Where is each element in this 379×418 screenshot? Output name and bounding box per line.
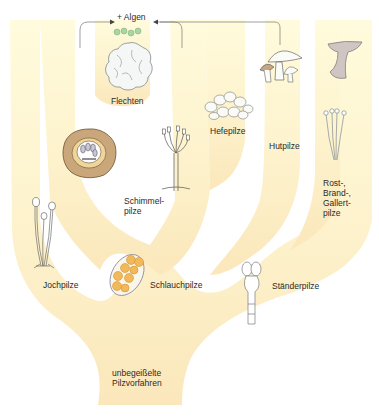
group-label-staenderpilze: Ständerpilze xyxy=(272,281,319,291)
mold-conidiophore-icon xyxy=(160,125,192,195)
group-label-schlauchpilze: Schlauchpilze xyxy=(150,280,202,290)
algae-cells-icon xyxy=(113,26,143,38)
group-label-rost-brand-gallertpilze: Rost-, Brand-, Gallert- pilze xyxy=(323,178,351,218)
group-label-hefepilze: Hefepilze xyxy=(210,126,245,136)
gallert-fungus-icon xyxy=(324,38,366,84)
group-label-flechten: Flechten xyxy=(111,96,144,106)
yeast-cells-icon xyxy=(203,90,255,120)
lichen-icon xyxy=(102,40,156,92)
ascus-icon xyxy=(105,250,149,300)
fungi-phylogeny-diagram: + Algen Flechten Hefepilze Hutpilze Rost… xyxy=(0,0,379,418)
arrow-head-right xyxy=(153,20,158,25)
zygomycete-sporangia-icon xyxy=(28,196,58,274)
ascocarp-section-icon xyxy=(60,127,118,179)
group-label-hutpilze: Hutpilze xyxy=(269,141,300,151)
basidium-icon xyxy=(240,260,264,328)
mushroom-icon xyxy=(258,40,308,86)
rust-fungus-icon xyxy=(322,108,348,164)
symbiosis-label: + Algen xyxy=(117,12,146,22)
root-label: unbegeißelte Pilzvorfahren xyxy=(112,368,162,388)
group-label-schimmelpilze: Schimmel- pilze xyxy=(124,196,164,216)
group-label-jochpilze: Jochpilze xyxy=(43,280,78,290)
